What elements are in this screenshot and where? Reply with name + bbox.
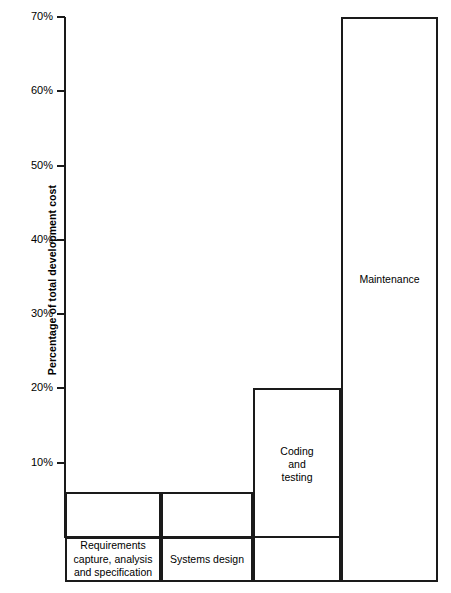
- y-tick-label: 70%: [0, 9, 53, 23]
- bar-maintenance: Maintenance: [341, 17, 438, 582]
- y-tick-mark: [57, 165, 65, 167]
- x-axis-baseline: [65, 536, 341, 538]
- y-tick-label: 30%: [0, 306, 53, 320]
- bar-chart: Percentage of total development cost 70%…: [0, 0, 451, 593]
- bar-coding-and-testing: Coding and testing: [253, 388, 341, 582]
- y-tick-mark: [57, 16, 65, 18]
- y-tick-mark: [57, 90, 65, 92]
- category-label-requirements: Requirements capture, analysis and speci…: [65, 537, 161, 582]
- y-tick-mark: [57, 387, 65, 389]
- y-tick-mark: [57, 462, 65, 464]
- y-axis-line: [64, 17, 66, 538]
- y-tick-label: 20%: [0, 380, 53, 394]
- y-tick-mark: [57, 239, 65, 241]
- y-tick-mark: [57, 313, 65, 315]
- y-tick-label: 50%: [0, 158, 53, 172]
- category-label-systems-design: Systems design: [161, 537, 253, 582]
- y-tick-label: 10%: [0, 455, 53, 469]
- bar-label-coding-and-testing: Coding and testing: [255, 445, 339, 484]
- y-tick-label: 60%: [0, 83, 53, 97]
- y-tick-label: 40%: [0, 232, 53, 246]
- bar-label-maintenance: Maintenance: [343, 273, 436, 286]
